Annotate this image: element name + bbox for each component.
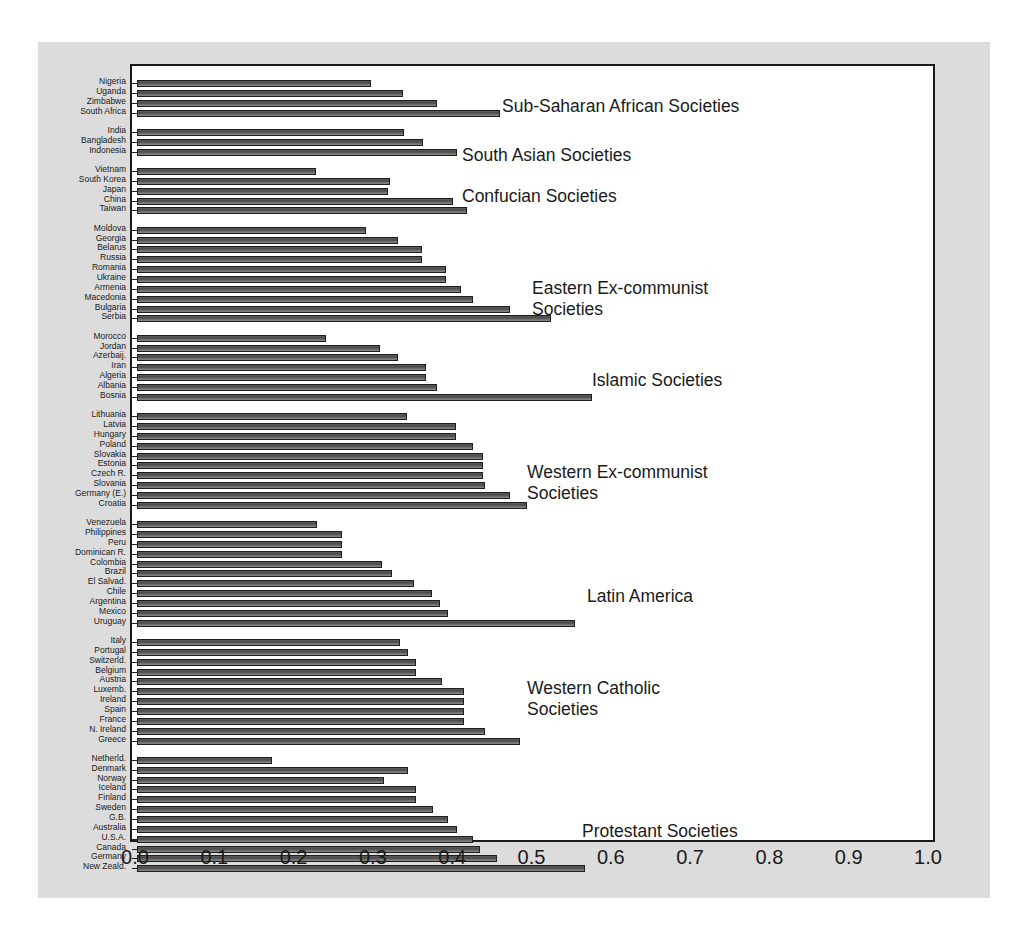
category-label: Bulgaria	[95, 303, 126, 312]
category-label: Indonesia	[89, 146, 126, 155]
x-tick-label: 0.9	[835, 846, 863, 869]
x-tick-label: 1.0	[914, 846, 942, 869]
bar	[137, 767, 408, 774]
category-label: Luxemb.	[93, 685, 126, 694]
bar	[137, 374, 426, 381]
group-annotation-label: Latin America	[587, 586, 693, 607]
category-label: Bosnia	[100, 391, 126, 400]
group-annotation-label: Islamic Societies	[592, 370, 722, 391]
group-annotation-label: Eastern Ex-communist Societies	[532, 278, 708, 320]
bar	[137, 718, 464, 725]
bar	[137, 698, 464, 705]
category-label: Mexico	[99, 607, 126, 616]
category-label: Taiwan	[100, 204, 126, 213]
category-label: Argentina	[90, 597, 126, 606]
bar	[137, 521, 317, 528]
category-label: Spain	[104, 705, 126, 714]
category-label: France	[100, 715, 126, 724]
category-label: Croatia	[99, 499, 126, 508]
category-label: Algeria	[100, 371, 126, 380]
category-label: Greece	[98, 735, 126, 744]
x-tick-label: 0.8	[755, 846, 783, 869]
category-label: Austria	[100, 675, 126, 684]
bar	[137, 110, 500, 117]
bar	[137, 306, 510, 313]
category-label: Uganda	[96, 87, 126, 96]
category-label: Australia	[93, 823, 126, 832]
x-tick-label: 0.7	[676, 846, 704, 869]
bar	[137, 227, 366, 234]
bar	[137, 100, 437, 107]
bar	[137, 757, 272, 764]
bar	[137, 178, 390, 185]
category-label: Azerbaij.	[93, 351, 126, 360]
bar	[137, 590, 432, 597]
category-label: Zimbabwe	[87, 97, 126, 106]
group-annotation-label: Protestant Societies	[582, 821, 738, 842]
bar	[137, 836, 473, 843]
category-label: Slovania	[93, 479, 126, 488]
bar	[137, 531, 342, 538]
bar	[137, 482, 485, 489]
category-label: Romania	[92, 263, 126, 272]
category-label: Moldova	[94, 224, 126, 233]
category-label: China	[104, 195, 126, 204]
bar	[137, 786, 416, 793]
category-label: Russia	[100, 253, 126, 262]
bar	[137, 276, 446, 283]
bar	[137, 90, 403, 97]
category-label: Sweden	[95, 803, 126, 812]
category-label: Germany (E.)	[75, 489, 126, 498]
category-label: Belgium	[95, 666, 126, 675]
bar	[137, 354, 398, 361]
bar	[137, 728, 485, 735]
bar	[137, 639, 400, 646]
bar	[137, 256, 422, 263]
bar	[137, 443, 473, 450]
category-label: Italy	[110, 636, 126, 645]
category-label: Bangladesh	[81, 136, 126, 145]
category-label: Belarus	[97, 243, 126, 252]
bar	[137, 413, 407, 420]
bar	[137, 423, 456, 430]
bar	[137, 384, 437, 391]
bar	[137, 570, 392, 577]
category-label: Portugal	[94, 646, 126, 655]
figure-panel: NigeriaUgandaZimbabweSouth AfricaIndiaBa…	[38, 42, 990, 898]
bar	[137, 207, 467, 214]
category-label: Ireland	[100, 695, 126, 704]
bar	[137, 266, 446, 273]
category-label: El Salvad.	[88, 577, 126, 586]
bar-series-container	[137, 66, 933, 840]
bar	[137, 345, 380, 352]
category-label: Colombia	[90, 558, 126, 567]
category-label: Iran	[111, 361, 126, 370]
bar	[137, 649, 408, 656]
x-tick-label: 0.1	[200, 846, 228, 869]
category-label: Peru	[108, 538, 126, 547]
bar	[137, 659, 416, 666]
category-label: Vietnam	[95, 165, 126, 174]
x-tick-label: 0.5	[518, 846, 546, 869]
category-label: Uruguay	[94, 617, 126, 626]
category-label: Philippines	[85, 528, 126, 537]
category-label: Jordan	[100, 342, 126, 351]
bar	[137, 738, 520, 745]
category-label: Armenia	[94, 283, 126, 292]
bar	[137, 237, 398, 244]
category-label: Serbia	[101, 312, 126, 321]
bar	[137, 296, 473, 303]
x-tick-label: 0.6	[597, 846, 625, 869]
category-label: Poland	[100, 440, 126, 449]
category-label: Norway	[97, 774, 126, 783]
bar	[137, 502, 527, 509]
bar	[137, 688, 464, 695]
group-annotation-label: Western Catholic Societies	[527, 678, 660, 720]
category-label-column: NigeriaUgandaZimbabweSouth AfricaIndiaBa…	[38, 64, 126, 842]
category-label: Brazil	[105, 567, 126, 576]
x-tick-label: 0.2	[280, 846, 308, 869]
bar	[137, 541, 342, 548]
bar	[137, 335, 326, 342]
bar	[137, 678, 442, 685]
category-label: Slovakia	[94, 450, 126, 459]
